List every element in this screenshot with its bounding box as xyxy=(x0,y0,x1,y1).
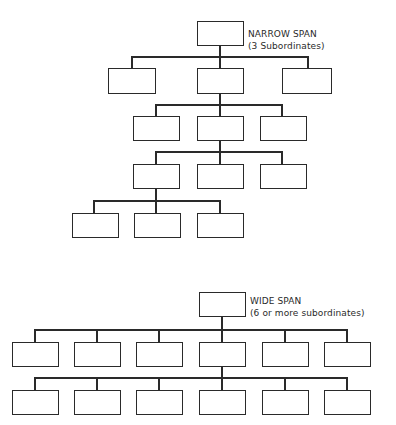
connector xyxy=(284,377,286,390)
connector xyxy=(93,200,95,213)
connector xyxy=(96,377,98,390)
narrow-l4-box xyxy=(134,213,181,238)
narrow-l2-box xyxy=(260,116,307,141)
connector xyxy=(34,377,348,379)
connector xyxy=(307,56,309,68)
connector xyxy=(155,104,283,106)
wide-l2-box xyxy=(199,390,246,415)
narrow-l1-box xyxy=(108,68,156,94)
wide-l1-box xyxy=(324,342,371,367)
wide-l2-box xyxy=(262,390,309,415)
connector xyxy=(34,329,348,331)
connector xyxy=(34,377,36,390)
span-of-control-diagram: NARROW SPAN (3 Subordinates) xyxy=(0,0,396,425)
connector xyxy=(219,200,221,213)
connector xyxy=(284,329,286,342)
connector xyxy=(346,377,348,390)
narrow-l3-box xyxy=(197,164,244,189)
wide-l2-box xyxy=(12,390,59,415)
narrow-l4-box xyxy=(72,213,119,238)
wide-l1-box xyxy=(262,342,309,367)
narrow-span-title: NARROW SPAN xyxy=(248,28,317,40)
connector xyxy=(131,56,133,68)
connector xyxy=(93,200,221,202)
wide-l2-box xyxy=(136,390,183,415)
narrow-l2-box xyxy=(197,116,244,141)
connector xyxy=(346,329,348,342)
narrow-l4-box xyxy=(197,213,244,238)
narrow-l3-box xyxy=(260,164,307,189)
wide-l1-box xyxy=(74,342,121,367)
wide-l2-box xyxy=(74,390,121,415)
connector xyxy=(131,56,309,58)
narrow-l2-box xyxy=(133,116,180,141)
connector xyxy=(155,104,157,116)
connector xyxy=(158,329,160,342)
connector xyxy=(155,151,283,153)
connector xyxy=(158,377,160,390)
connector xyxy=(281,104,283,116)
connector xyxy=(155,151,157,164)
narrow-l1-box xyxy=(197,68,244,94)
narrow-l3-box xyxy=(133,164,180,189)
narrow-l1-box xyxy=(282,68,332,94)
wide-top-box xyxy=(199,292,246,317)
wide-l1-box xyxy=(12,342,59,367)
wide-l2-box xyxy=(324,390,371,415)
wide-l1-box xyxy=(199,342,246,367)
narrow-span-subtitle: (3 Subordinates) xyxy=(248,40,325,52)
narrow-top-box xyxy=(197,21,244,46)
connector xyxy=(96,329,98,342)
connector xyxy=(281,151,283,164)
wide-span-title: WIDE SPAN xyxy=(250,295,301,307)
wide-l1-box xyxy=(136,342,183,367)
connector xyxy=(34,329,36,342)
wide-span-subtitle: (6 or more subordinates) xyxy=(250,307,365,319)
